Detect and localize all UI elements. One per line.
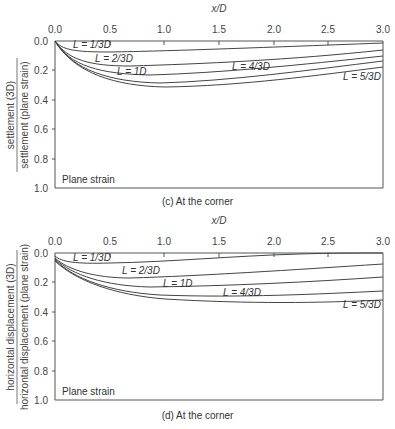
svg-text:1.5: 1.5	[212, 24, 226, 35]
svg-text:horizontal displacement (3D): horizontal displacement (3D)	[5, 263, 16, 390]
svg-text:0.0: 0.0	[34, 36, 48, 47]
curve-l-4-3d	[55, 260, 383, 296]
curve-label: L = 2/3D	[95, 53, 133, 64]
svg-text:2.0: 2.0	[267, 24, 281, 35]
svg-text:2.5: 2.5	[321, 236, 335, 247]
plot-frame	[52, 253, 383, 400]
svg-text:2.5: 2.5	[321, 24, 335, 35]
svg-text:0.0: 0.0	[34, 248, 48, 259]
svg-text:0.2: 0.2	[34, 65, 48, 76]
curve-label: L = 5/3D	[343, 299, 381, 310]
svg-text:settlement (3D): settlement (3D)	[5, 81, 16, 149]
svg-text:1.0: 1.0	[157, 24, 171, 35]
caption-c: (c) At the corner	[0, 196, 395, 207]
curve-label: L = 4/3D	[232, 61, 270, 72]
svg-text:0.6: 0.6	[34, 124, 48, 135]
curve-label: L = 1D	[163, 278, 193, 289]
y-tick-labels: 0.0 0.2 0.4 0.6 0.8 1.0	[34, 36, 48, 194]
curve-label: L = 2/3D	[122, 265, 160, 276]
y-tick-labels: 0.0 0.2 0.4 0.6 0.8 1.0	[34, 248, 48, 406]
svg-text:0.5: 0.5	[103, 24, 117, 35]
y-axis-title: settlement (3D) settlement (plane strain…	[5, 58, 30, 172]
curve-label: L = 1/3D	[73, 252, 111, 263]
svg-text:0.6: 0.6	[34, 336, 48, 347]
chart-panel-d: x/D 0.0 0.5 1.0 1.5 2.0 2.5 3.0 0.0 0.2 …	[0, 212, 395, 429]
svg-text:2.0: 2.0	[267, 236, 281, 247]
curve-label: L = 1D	[117, 66, 147, 77]
svg-text:1.5: 1.5	[212, 236, 226, 247]
x-axis-title: x/D	[211, 215, 227, 226]
svg-text:0.0: 0.0	[48, 236, 62, 247]
svg-text:3.0: 3.0	[376, 236, 390, 247]
curve-label: L = 1/3D	[73, 39, 111, 50]
chart-panel-c: x/D 0.0 0.5 1.0 1.5 2.0 2.5 3.0 0.0 0.2 …	[0, 0, 395, 212]
svg-text:0.8: 0.8	[34, 366, 48, 377]
svg-text:3.0: 3.0	[376, 24, 390, 35]
x-tick-labels: 0.0 0.5 1.0 1.5 2.0 2.5 3.0	[48, 24, 390, 35]
svg-text:0.5: 0.5	[103, 236, 117, 247]
svg-text:0.0: 0.0	[48, 24, 62, 35]
curve-label: L = 4/3D	[223, 287, 261, 298]
curve-label: L = 5/3D	[343, 71, 381, 82]
x-tick-labels: 0.0 0.5 1.0 1.5 2.0 2.5 3.0	[48, 236, 390, 247]
y-axis-title: horizontal displacement (3D) horizontal …	[5, 244, 30, 410]
caption-d: (d) At the corner	[0, 410, 395, 421]
plane-strain-note: Plane strain	[62, 174, 115, 185]
svg-text:0.4: 0.4	[34, 95, 48, 106]
svg-text:1.0: 1.0	[34, 395, 48, 406]
svg-text:0.8: 0.8	[34, 154, 48, 165]
svg-text:horizontal displacement (plane: horizontal displacement (plane strain)	[19, 244, 30, 410]
x-axis-title: x/D	[211, 3, 227, 14]
chart-c-svg: x/D 0.0 0.5 1.0 1.5 2.0 2.5 3.0 0.0 0.2 …	[0, 0, 395, 212]
chart-d-svg: x/D 0.0 0.5 1.0 1.5 2.0 2.5 3.0 0.0 0.2 …	[0, 212, 395, 429]
svg-text:1.0: 1.0	[34, 183, 48, 194]
svg-text:settlement (plane strain): settlement (plane strain)	[19, 61, 30, 168]
svg-text:0.2: 0.2	[34, 277, 48, 288]
plane-strain-note: Plane strain	[62, 386, 115, 397]
svg-text:1.0: 1.0	[157, 236, 171, 247]
svg-text:0.4: 0.4	[34, 307, 48, 318]
